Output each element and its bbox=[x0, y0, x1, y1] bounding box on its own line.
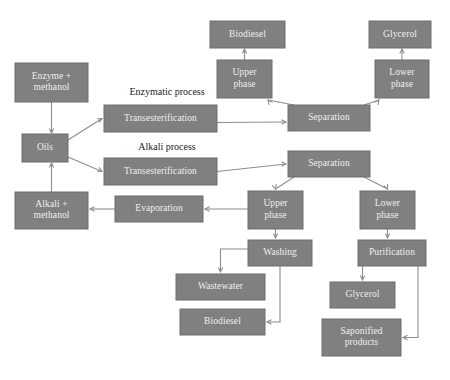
edge-enzyme-to-oils bbox=[49, 102, 53, 133]
node-biodiesel-alkali[interactable]: Biodiesel bbox=[180, 309, 265, 335]
edge-washing-to-biodiesel bbox=[267, 266, 280, 324]
edge-upper-phase-to-evaporation bbox=[205, 207, 248, 211]
edge-upper-phase-to-washing bbox=[273, 229, 277, 238]
node-label-biodiesel-alkali: Biodiesel bbox=[204, 316, 241, 326]
node-label-upper-phase-enzymatic: phase bbox=[233, 79, 255, 89]
node-label-alkali-methanol: methanol bbox=[33, 210, 69, 220]
node-label-upper-phase-alkali: Upper bbox=[263, 198, 288, 208]
node-saponified-products[interactable]: Saponifiedproducts bbox=[322, 319, 401, 356]
nodes-layer: Enzyme +methanolOilsAlkali +methanolTran… bbox=[15, 21, 431, 356]
node-label-biodiesel-enzymatic: Biodiesel bbox=[229, 29, 266, 39]
node-enzyme-methanol[interactable]: Enzyme +methanol bbox=[15, 63, 88, 102]
node-evaporation[interactable]: Evaporation bbox=[115, 196, 203, 222]
flowchart-canvas: Enzyme +methanolOilsAlkali +methanolTran… bbox=[0, 0, 450, 380]
edge-evaporation-to-alkali-methanol bbox=[90, 207, 115, 211]
node-label-alkali-methanol: Alkali + bbox=[35, 199, 67, 209]
alkali-process-label: Alkali process bbox=[138, 141, 196, 152]
edge-transesterification-alkali-to-separation bbox=[217, 162, 286, 172]
arrowhead-edge-separation-to-upper-phase-alkali bbox=[272, 184, 276, 189]
edge-separation-to-upper-phase-enzymatic bbox=[268, 100, 294, 105]
node-glycerol-alkali[interactable]: Glycerol bbox=[330, 282, 395, 308]
edge-purification-to-glycerol bbox=[360, 266, 364, 280]
edge-line-edge-separation-to-lower-phase-alkali bbox=[364, 177, 388, 189]
node-label-lower-phase-enzymatic: Lower bbox=[389, 67, 415, 77]
node-label-saponified-products: products bbox=[345, 337, 379, 347]
node-label-upper-phase-enzymatic: Upper bbox=[232, 67, 257, 77]
node-washing[interactable]: Washing bbox=[248, 240, 312, 266]
node-purification[interactable]: Purification bbox=[358, 240, 426, 266]
node-label-glycerol-enzymatic: Glycerol bbox=[383, 29, 417, 39]
edge-line-edge-washing-to-wastewater bbox=[221, 249, 249, 272]
node-label-separation-alkali: Separation bbox=[308, 158, 350, 168]
edge-transesterification-enzymatic-to-separation bbox=[217, 120, 286, 124]
node-separation-alkali[interactable]: Separation bbox=[288, 151, 370, 177]
edge-alkali-to-oils bbox=[49, 163, 53, 192]
edge-separation-to-lower-phase-alkali bbox=[364, 177, 388, 189]
node-wastewater[interactable]: Wastewater bbox=[176, 274, 265, 300]
node-separation-enzymatic[interactable]: Separation bbox=[288, 105, 370, 131]
edge-line-edge-purification-to-saponified-products bbox=[403, 266, 418, 338]
node-label-upper-phase-alkali: phase bbox=[264, 210, 286, 220]
node-label-wastewater: Wastewater bbox=[198, 281, 244, 291]
node-label-transesterification-enzymatic: Transesterification bbox=[124, 113, 197, 123]
node-transesterification-alkali[interactable]: Transesterification bbox=[104, 158, 217, 185]
edge-line-edge-oils-to-transesterification-alkali bbox=[68, 157, 102, 172]
node-upper-phase-alkali[interactable]: Upperphase bbox=[248, 191, 303, 229]
node-label-evaporation: Evaporation bbox=[135, 203, 183, 213]
node-label-enzyme-methanol: methanol bbox=[33, 82, 69, 92]
node-label-lower-phase-alkali: Lower bbox=[375, 198, 401, 208]
node-label-lower-phase-alkali: phase bbox=[376, 210, 398, 220]
edge-washing-to-wastewater bbox=[218, 249, 248, 272]
edge-purification-to-saponified-products bbox=[403, 266, 418, 340]
edge-upper-phase-to-biodiesel-enzymatic bbox=[242, 49, 246, 60]
edge-separation-to-upper-phase-alkali bbox=[272, 177, 294, 189]
node-label-enzyme-methanol: Enzyme + bbox=[32, 71, 72, 81]
node-glycerol-enzymatic[interactable]: Glycerol bbox=[369, 21, 431, 48]
node-lower-phase-alkali[interactable]: Lowerphase bbox=[360, 191, 415, 229]
node-label-purification: Purification bbox=[369, 247, 415, 257]
node-label-washing: Washing bbox=[263, 247, 297, 257]
node-label-transesterification-alkali: Transesterification bbox=[124, 166, 197, 176]
node-lower-phase-enzymatic[interactable]: Lowerphase bbox=[375, 60, 429, 98]
edge-line-edge-oils-to-transesterification-enzymatic bbox=[68, 119, 102, 141]
edge-lower-phase-to-glycerol-enzymatic bbox=[400, 49, 404, 60]
enzymatic-process-label: Enzymatic process bbox=[129, 86, 204, 97]
node-oils[interactable]: Oils bbox=[22, 134, 68, 162]
edge-line-edge-transesterification-alkali-to-separation bbox=[217, 164, 286, 172]
edge-oils-to-transesterification-enzymatic bbox=[68, 119, 102, 141]
node-label-lower-phase-enzymatic: phase bbox=[391, 79, 413, 89]
edge-line-edge-separation-to-upper-phase-alkali bbox=[276, 177, 295, 189]
edge-line-edge-transesterification-enzymatic-to-separation bbox=[217, 122, 286, 123]
edge-oils-to-transesterification-alkali bbox=[68, 157, 102, 172]
node-upper-phase-enzymatic[interactable]: Upperphase bbox=[217, 60, 272, 98]
node-transesterification-enzymatic[interactable]: Transesterification bbox=[104, 105, 217, 132]
node-label-saponified-products: Saponified bbox=[340, 326, 382, 336]
node-alkali-methanol[interactable]: Alkali +methanol bbox=[15, 192, 88, 229]
process-flow-diagram: Enzyme +methanolOilsAlkali +methanolTran… bbox=[0, 0, 450, 380]
node-label-glycerol-alkali: Glycerol bbox=[345, 289, 379, 299]
node-label-separation-enzymatic: Separation bbox=[308, 112, 350, 122]
edge-lower-phase-to-purification bbox=[385, 229, 389, 238]
edge-line-edge-washing-to-biodiesel bbox=[267, 266, 280, 322]
node-biodiesel-enzymatic[interactable]: Biodiesel bbox=[210, 21, 285, 48]
edge-separation-to-lower-phase-enzymatic bbox=[364, 100, 379, 105]
node-label-oils: Oils bbox=[37, 142, 53, 152]
